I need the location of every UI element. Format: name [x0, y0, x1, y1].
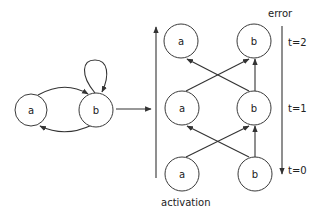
node-a-t0-label: a [179, 169, 185, 180]
row-t0: a b [165, 157, 272, 191]
time-label-t2: t=2 [288, 37, 307, 48]
row-t1: a b [165, 91, 271, 125]
edge-b-self-loop [84, 60, 106, 93]
edges-t1-to-t2 [186, 59, 255, 91]
node-a-t1-label: a [179, 103, 185, 114]
time-label-t1: t=1 [288, 103, 307, 114]
node-a-label: a [28, 105, 34, 116]
time-label-t0: t=0 [288, 165, 307, 176]
activation-label: activation [161, 197, 211, 208]
node-b-t2-label: b [251, 36, 257, 47]
node-b-t0-label: b [252, 169, 258, 180]
edge-a-to-b [38, 87, 88, 95]
node-b-label: b [93, 105, 99, 116]
row-t2: a b [164, 24, 271, 58]
error-label: error [268, 8, 293, 19]
node-a-t2-label: a [178, 36, 184, 47]
node-b-t1-label: b [251, 103, 257, 114]
unrolled-rnn-diagram: a b a b a b a b error t=2 [0, 0, 320, 220]
edges-t0-to-t1 [186, 126, 255, 157]
edge-b-to-a [40, 125, 92, 132]
recurrent-network: a b [15, 60, 113, 132]
